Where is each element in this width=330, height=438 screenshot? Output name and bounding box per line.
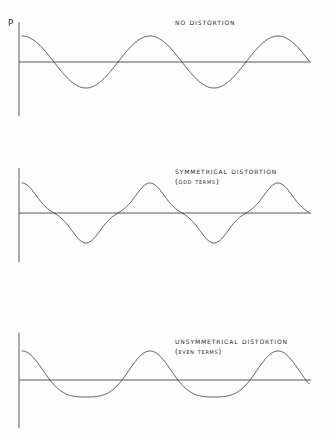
distortion-figure: P No Distortion Symmetrical Distortion (…	[0, 0, 330, 438]
panel-title-unsymmetrical-distortion: Unsymmetrical Distortion	[175, 336, 288, 346]
panel-no-distortion	[19, 22, 311, 116]
panel-unsymmetrical-distortion	[19, 333, 311, 428]
waveform-curve	[22, 351, 309, 397]
panel-title-no-distortion: No Distortion	[175, 17, 235, 27]
y-axis-label: P	[8, 18, 13, 28]
panel-subtitle-unsymmetrical-distortion: (even terms)	[175, 347, 222, 356]
panel-subtitle-symmetrical-distortion: (odd terms)	[175, 177, 219, 186]
panel-title-symmetrical-distortion: Symmetrical Distortion	[175, 166, 277, 176]
panel-symmetrical-distortion	[19, 168, 311, 262]
waveform-plot	[0, 0, 330, 438]
